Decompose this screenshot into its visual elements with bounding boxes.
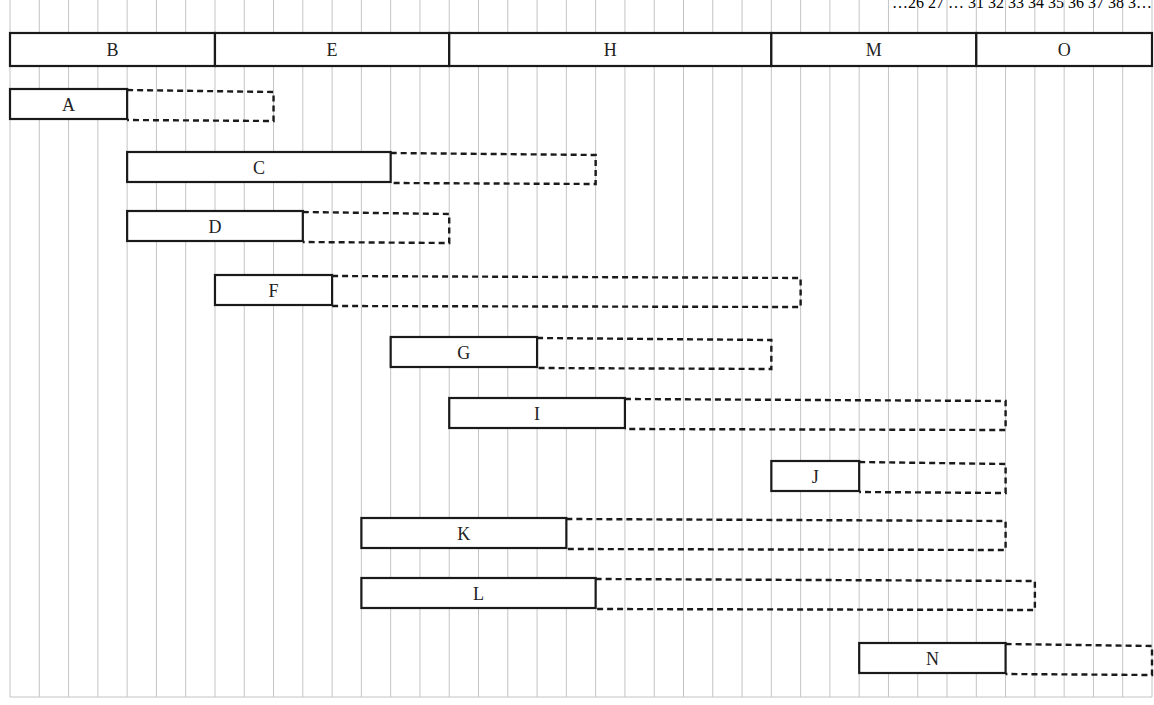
critical-segment-label: B — [106, 40, 118, 60]
activity-label: C — [253, 158, 265, 178]
float-bar — [596, 579, 1035, 610]
activity-label: K — [457, 524, 470, 544]
activity-label: I — [534, 404, 540, 424]
critical-path-row: BEHMO — [10, 33, 1152, 66]
activity-label: A — [62, 95, 75, 115]
critical-segment-label: H — [604, 40, 617, 60]
task-rows: ACDFGIJKLN — [10, 89, 1152, 675]
task-row-n: N — [859, 643, 1152, 675]
task-row-a: A — [10, 89, 274, 121]
float-bar — [127, 90, 273, 121]
header-digits-partial: …26 27 … 31 32 33 34 35 36 37 38 3… — [892, 0, 1152, 11]
activity-label: D — [208, 217, 221, 237]
task-row-d: D — [127, 211, 449, 243]
activity-label: F — [269, 281, 279, 301]
float-bar — [303, 212, 449, 243]
gantt-chart-svg: …26 27 … 31 32 33 34 35 36 37 38 3… BEHM… — [0, 0, 1154, 705]
float-bar — [1006, 644, 1152, 675]
task-row-i: I — [449, 398, 1005, 430]
critical-segment-label: M — [866, 40, 882, 60]
critical-segment-label: E — [327, 40, 338, 60]
task-row-c: C — [127, 152, 596, 184]
activity-label: L — [473, 584, 484, 604]
critical-segment-label: O — [1058, 40, 1071, 60]
float-bar — [391, 153, 596, 184]
activity-label: G — [457, 343, 470, 363]
task-row-l: L — [361, 578, 1034, 610]
float-bar — [859, 462, 1005, 493]
gantt-chart: …26 27 … 31 32 33 34 35 36 37 38 3… BEHM… — [0, 0, 1154, 705]
float-bar — [625, 399, 1006, 430]
float-bar — [566, 519, 1005, 550]
task-row-g: G — [391, 337, 772, 369]
activity-label: J — [812, 467, 819, 487]
activity-label: N — [926, 649, 939, 669]
